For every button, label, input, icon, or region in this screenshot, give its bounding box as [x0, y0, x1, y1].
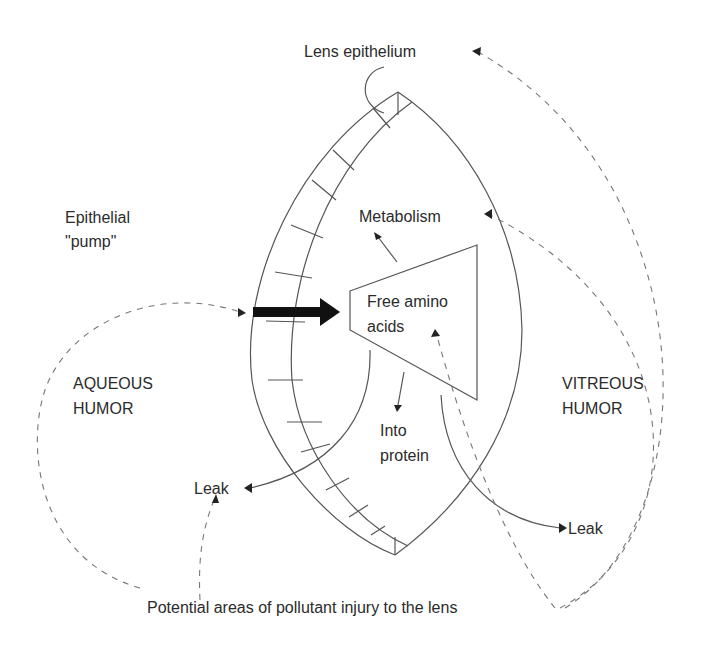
lens-posterior-surface: [395, 92, 522, 555]
caption-pollutant-injury: Potential areas of pollutant injury to t…: [147, 599, 457, 616]
dashed-to-pump-arrowhead: [238, 308, 246, 317]
label-leak-left: Leak: [194, 480, 230, 497]
label-free-amino-2: acids: [367, 318, 404, 335]
leak-right-arrowhead: [559, 523, 567, 533]
label-leak-right: Leak: [568, 520, 604, 537]
cell-divider: [266, 321, 305, 322]
label-epithelial-pump-2: "pump": [65, 233, 116, 250]
dashed-to-metabolism-arrowhead: [484, 209, 492, 219]
label-aqueous-1: AQUEOUS: [73, 375, 153, 392]
metabolism-arrowhead: [374, 232, 382, 240]
pump-arrow-shaft: [253, 307, 323, 317]
cell-divider: [349, 505, 368, 517]
label-into-protein-1: Into: [380, 422, 407, 439]
cell-divider: [312, 180, 336, 200]
cell-divider: [301, 444, 330, 452]
into-protein-arrowhead: [394, 405, 402, 412]
leak-left-curve: [250, 350, 370, 488]
cell-divider: [373, 108, 390, 128]
cell-divider: [371, 526, 385, 535]
dashed-to-amino-acids: [437, 336, 555, 608]
dashed-to-pump: [37, 303, 240, 588]
label-lens-epithelium: Lens epithelium: [304, 43, 416, 60]
label-epithelial-pump-1: Epithelial: [65, 209, 130, 226]
leak-left-arrowhead: [244, 483, 252, 493]
dashed-to-leak: [200, 500, 214, 600]
into-protein-arrow: [398, 372, 404, 405]
epithelium-bracket: [365, 67, 384, 113]
label-metabolism: Metabolism: [359, 208, 441, 225]
label-aqueous-2: HUMOR: [73, 400, 133, 417]
leak-right-curve: [441, 395, 560, 528]
pump-arrow-head: [320, 298, 340, 326]
cell-divider: [275, 272, 312, 278]
label-into-protein-2: protein: [380, 447, 429, 464]
label-vitreous-2: HUMOR: [562, 400, 622, 417]
lens-diagram: Lens epithelium Epithelial "pump" Metabo…: [0, 0, 707, 653]
label-free-amino-1: Free amino: [367, 293, 448, 310]
label-vitreous-1: VITREOUS: [562, 375, 644, 392]
cell-divider: [333, 150, 354, 170]
dashed-to-epithelium-arrowhead: [472, 47, 481, 56]
metabolism-arrow: [378, 237, 397, 262]
dashed-to-amino-acids-arrowhead: [431, 329, 440, 337]
